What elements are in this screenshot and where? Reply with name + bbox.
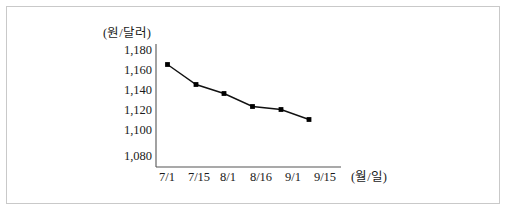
x-axis-tick-label: 9/1 <box>285 170 301 185</box>
data-point-marker <box>279 107 284 112</box>
x-axis-tick-label: 9/15 <box>314 170 336 185</box>
data-point-marker <box>250 104 255 109</box>
x-axis-tick-label: 7/1 <box>159 170 175 185</box>
data-point-marker <box>222 91 227 96</box>
x-axis-unit-label: (월/일) <box>351 166 387 185</box>
data-point-marker <box>194 82 199 87</box>
series-line <box>168 65 310 120</box>
line-chart: (원/달러) 1,180 1,160 1,140 1,120 1,100 1,0… <box>0 0 508 212</box>
screenshot-root: (원/달러) 1,180 1,160 1,140 1,120 1,100 1,0… <box>0 0 508 212</box>
data-point-marker <box>307 117 312 122</box>
x-axis-tick-label: 7/15 <box>188 170 210 185</box>
x-axis-tick-label: 8/1 <box>220 170 236 185</box>
data-point-marker <box>165 62 170 67</box>
x-axis-tick-label: 8/16 <box>250 170 272 185</box>
